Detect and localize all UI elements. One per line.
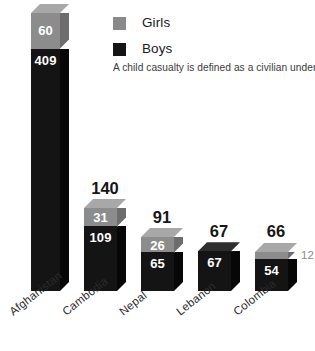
total-label-cambodia: 140 (84, 180, 126, 197)
value-label-girls-cambodia: 31 (84, 211, 117, 224)
total-label-nepal: 91 (141, 209, 183, 226)
value-label-girls-nepal: 26 (141, 239, 174, 252)
value-label-girls-colombia: 12 (301, 250, 314, 262)
bar-top-face (141, 228, 183, 237)
value-label-boys-nepal: 65 (141, 257, 174, 270)
segment-side (174, 237, 183, 252)
segment-girls-cambodia[interactable]: 31 (84, 208, 117, 226)
value-label-boys-cambodia: 109 (84, 231, 117, 244)
segment-side (117, 208, 126, 226)
segment-side (174, 252, 183, 291)
total-label-colombia: 66 (255, 223, 297, 240)
value-label-boys-colombia: 54 (255, 264, 288, 277)
category-label-nepal: Nepal (117, 289, 149, 318)
value-label-girls-afghanistan: 60 (31, 24, 60, 37)
segment-boys-afghanistan[interactable]: 409 (31, 49, 60, 291)
segment-girls-nepal[interactable]: 26 (141, 237, 174, 252)
value-label-boys-afghanistan: 409 (31, 54, 60, 67)
segment-front (255, 252, 288, 259)
bar-top-face (198, 242, 240, 251)
bar-afghanistan[interactable]: 40960469 (31, 13, 60, 291)
category-label-lebanon: Lebanon (174, 280, 218, 318)
bar-top-face (255, 243, 297, 252)
total-label-afghanistan: 469 (31, 0, 69, 1)
bar-top-face (31, 4, 69, 13)
total-label-lebanon: 67 (198, 223, 240, 240)
bar-top-face (84, 199, 126, 208)
segment-side (60, 13, 69, 49)
segment-front (31, 49, 60, 291)
segment-girls-colombia[interactable] (255, 252, 288, 259)
segment-side (60, 49, 69, 291)
segment-girls-afghanistan[interactable]: 60 (31, 13, 60, 49)
segment-side (117, 226, 126, 291)
bar-nepal[interactable]: 652691 (141, 237, 174, 291)
value-label-boys-lebanon: 67 (198, 256, 231, 269)
segment-side (288, 252, 297, 259)
segment-side (288, 259, 297, 291)
bars-plot-area: 40960469Afghanistan10931140Cambodia65269… (0, 0, 315, 351)
segment-side (231, 251, 240, 291)
chart-canvas: Girls Boys A child casualty is defined a… (0, 0, 315, 351)
segment-boys-nepal[interactable]: 65 (141, 252, 174, 291)
